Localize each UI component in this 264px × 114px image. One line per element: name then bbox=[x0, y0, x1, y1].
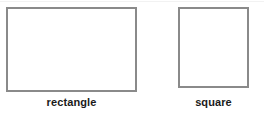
rectangle-label: rectangle bbox=[6, 96, 137, 109]
square-shape bbox=[178, 7, 249, 88]
square-label: square bbox=[178, 96, 249, 109]
shapes-canvas: rectangle square bbox=[0, 0, 264, 114]
shape-group-rectangle: rectangle bbox=[0, 0, 144, 114]
rectangle-shape bbox=[6, 7, 137, 92]
shape-group-square: square bbox=[160, 0, 264, 114]
